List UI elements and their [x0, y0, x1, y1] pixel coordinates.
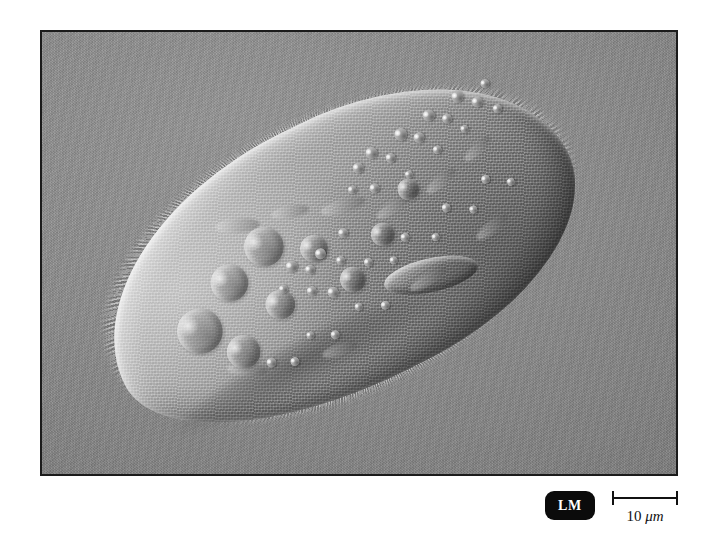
- scale-bar-line: [612, 497, 678, 499]
- scale-bar-cap-left: [612, 491, 614, 505]
- lm-badge-label: LM: [558, 498, 582, 514]
- field-vignette: [42, 32, 676, 474]
- lm-badge: LM: [545, 491, 595, 520]
- scale-bar-unit: μm: [645, 508, 663, 524]
- scale-bar-label: 10 μm: [610, 508, 680, 525]
- micrograph-plate: [40, 30, 678, 476]
- scale-bar: 10 μm: [610, 491, 680, 533]
- scale-bar-cap-right: [676, 491, 678, 505]
- scale-bar-value: 10: [626, 508, 641, 524]
